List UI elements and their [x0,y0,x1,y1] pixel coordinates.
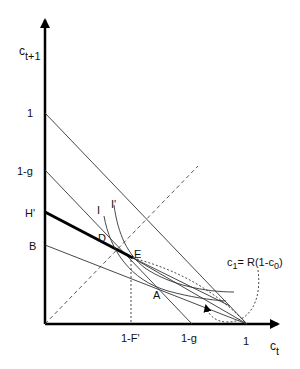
x-tick-1-g: 1-g [181,332,197,344]
y-axis-label: ct+1 [19,44,41,62]
annotation-arc [206,270,259,322]
indifference-curve-I [104,216,226,301]
thick-line-H-E [45,212,133,258]
y-tick-1-g: 1-g [17,165,33,177]
x-axis-label: ct [270,339,279,357]
curve-label-I-prime: I' [111,198,116,210]
point-A: A [153,289,161,301]
y-tick-H-prime: H' [25,207,35,219]
point-E: E [134,248,141,260]
axes [45,20,278,324]
x-tick-1-F-prime: 1-F' [121,332,140,344]
annotation-equation: c1= R(1-c0) [227,256,283,271]
x-tick-1: 1 [243,335,249,347]
point-D: D [98,232,106,244]
diagram-canvas: ct+1 ct 1 1-g H' B 1-F' 1-g 1 D E A I I'… [0,0,300,369]
forty-five-degree-line [45,166,198,324]
y-tick-1: 1 [27,107,33,119]
curve-label-I: I [97,204,100,216]
y-tick-B: B [29,240,36,252]
budget-line-B [45,245,247,324]
